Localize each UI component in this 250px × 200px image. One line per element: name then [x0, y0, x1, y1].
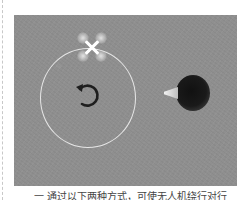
- orbit-illustration-photo: [14, 15, 237, 186]
- person-head: [176, 75, 210, 111]
- person-topdown: [164, 75, 214, 115]
- rotate-counterclockwise-icon: [73, 81, 103, 111]
- page-margin-rule: [2, 0, 3, 200]
- remote-controller-icon: [164, 87, 178, 99]
- figure-caption: 一 通过以下两种方式，可使无人机绕行对行: [34, 191, 244, 200]
- drone-icon: [77, 32, 107, 62]
